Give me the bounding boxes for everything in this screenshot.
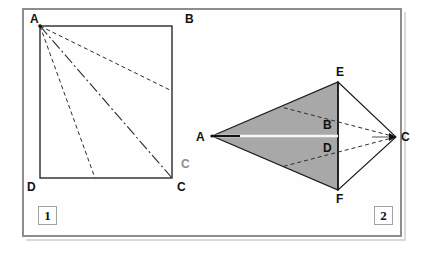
label-figure2-a: A	[196, 131, 205, 143]
label-figure1-b: B	[185, 13, 194, 25]
figure1-caption-box: 1	[38, 206, 57, 225]
figure-panel	[22, 8, 402, 237]
figure-canvas: A B C D A E F C B D C 1 2	[0, 0, 424, 255]
label-faint-c-watermark: C	[181, 158, 190, 170]
label-figure1-a: A	[30, 13, 39, 25]
label-figure2-d: D	[323, 142, 332, 154]
label-figure1-c: C	[177, 181, 186, 193]
label-figure1-d: D	[27, 181, 36, 193]
label-figure2-e: E	[336, 66, 344, 78]
label-figure2-b: B	[323, 119, 332, 131]
label-figure2-c: C	[401, 131, 410, 143]
panel-shadow-right	[404, 12, 406, 241]
label-figure2-f: F	[336, 193, 343, 205]
panel-shadow-bottom	[26, 239, 406, 241]
figure2-caption-box: 2	[374, 206, 393, 225]
